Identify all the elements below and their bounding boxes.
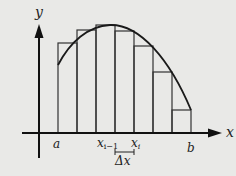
x-i-minus-1-label: xi−1: [97, 136, 118, 151]
rectangle-6: [153, 72, 172, 133]
rectangle-5: [134, 46, 153, 133]
rectangle-1: [58, 43, 77, 133]
y-axis-label: y: [34, 4, 44, 20]
x-i-label: xi: [131, 136, 141, 151]
rectangles: [58, 25, 191, 133]
x-axis-label: x: [226, 124, 234, 140]
riemann-sum-diagram: y x a b xi−1 xi Δx: [0, 0, 236, 176]
rectangle-2: [77, 30, 96, 133]
rectangle-7: [172, 110, 191, 133]
rectangle-4: [115, 31, 134, 133]
function-curve: [58, 25, 191, 110]
interval-end-label: b: [187, 141, 195, 155]
interval-start-label: a: [53, 137, 60, 151]
rectangle-3: [96, 25, 115, 133]
y-axis-arrow-icon: [35, 24, 44, 38]
diagram-canvas: y x a b xi−1 xi Δx: [0, 0, 236, 176]
delta-x-label: Δx: [114, 154, 131, 168]
x-axis-arrow-icon: [208, 129, 222, 138]
